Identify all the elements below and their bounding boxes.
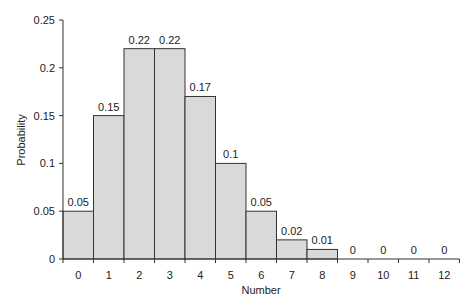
y-tick-label: 0.2: [40, 62, 55, 74]
value-label: 0.22: [159, 34, 180, 46]
bar: [307, 249, 338, 259]
x-tick-label: 11: [408, 269, 419, 281]
value-label: 0.17: [190, 81, 211, 93]
x-tick-label: 12: [438, 269, 450, 281]
value-label: 0: [380, 244, 386, 256]
x-tick-label: 7: [289, 269, 295, 281]
bar: [185, 96, 216, 259]
value-label: 0: [350, 244, 356, 256]
x-tick-label: 0: [75, 269, 81, 281]
bar: [216, 163, 247, 259]
y-tick-label: 0.1: [40, 157, 55, 169]
value-label: 0.22: [129, 34, 150, 46]
x-axis: 0123456789101112: [63, 259, 460, 281]
y-tick-label: 0.15: [34, 110, 55, 122]
bar: [63, 211, 94, 259]
x-axis-title: Number: [241, 284, 280, 296]
x-tick-label: 3: [167, 269, 173, 281]
bar: [155, 49, 186, 259]
value-label: 0.02: [281, 225, 302, 237]
y-axis: 00.050.10.150.20.25: [34, 14, 63, 265]
bar: [94, 116, 125, 259]
x-tick-label: 9: [350, 269, 356, 281]
y-tick-label: 0.05: [34, 205, 55, 217]
bar: [124, 49, 155, 259]
value-label: 0.05: [68, 196, 89, 208]
x-tick-label: 8: [319, 269, 325, 281]
value-label: 0.15: [98, 101, 119, 113]
y-tick-label: 0: [49, 253, 55, 265]
value-label: 0.05: [251, 196, 272, 208]
value-label: 0.01: [312, 234, 333, 246]
value-label: 0: [441, 244, 447, 256]
value-label: 0.1: [223, 148, 238, 160]
x-tick-label: 6: [258, 269, 264, 281]
bar: [277, 240, 308, 259]
probability-bar-chart: 0.050.150.220.220.170.10.050.020.010000 …: [0, 0, 473, 306]
x-tick-label: 2: [136, 269, 142, 281]
value-label: 0: [411, 244, 417, 256]
bar: [246, 211, 277, 259]
x-tick-label: 10: [377, 269, 389, 281]
x-tick-label: 1: [106, 269, 112, 281]
x-tick-label: 5: [228, 269, 234, 281]
y-tick-label: 0.25: [34, 14, 55, 26]
x-tick-label: 4: [197, 269, 203, 281]
y-axis-title: Probability: [15, 114, 27, 166]
